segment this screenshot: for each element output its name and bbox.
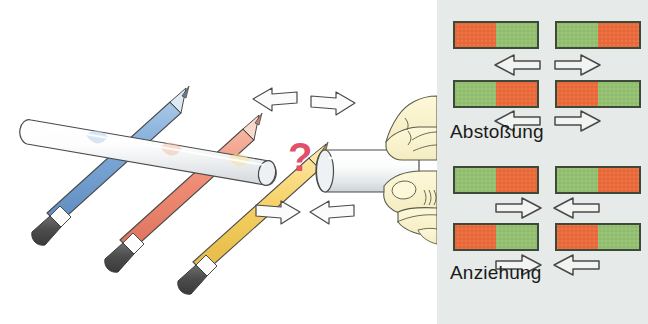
arrow-left — [554, 198, 599, 218]
arrow-right — [555, 111, 600, 131]
magnet-bar — [556, 167, 640, 193]
figure-root: ? — [0, 0, 648, 324]
pencil-magnet-illustration: ? — [0, 0, 437, 324]
arrow-left — [554, 255, 599, 275]
magnet-bar — [556, 81, 640, 107]
arrow-bottom-right — [310, 201, 354, 224]
left-illustration-svg — [0, 0, 437, 324]
question-mark: ? — [288, 137, 312, 177]
arrow-left — [495, 55, 540, 75]
attraction-row-1 — [454, 167, 640, 218]
magnet-bar — [454, 22, 538, 48]
arrow-right — [555, 55, 600, 75]
arrow-top-right — [311, 92, 355, 115]
magnet-pole-diagram: Abstoßung Anziehung — [437, 0, 648, 324]
magnet-bar — [454, 167, 538, 193]
caption-repulsion: Abstoßung — [450, 122, 544, 141]
caption-attraction: Anziehung — [450, 263, 542, 282]
magnet-bar — [454, 81, 538, 107]
magnet-bar — [556, 22, 640, 48]
magnet-bar — [454, 224, 538, 250]
arrow-right — [496, 198, 541, 218]
repulsion-row-1 — [454, 22, 640, 75]
magnet-bar — [556, 224, 640, 250]
arrow-top-left — [253, 88, 297, 111]
